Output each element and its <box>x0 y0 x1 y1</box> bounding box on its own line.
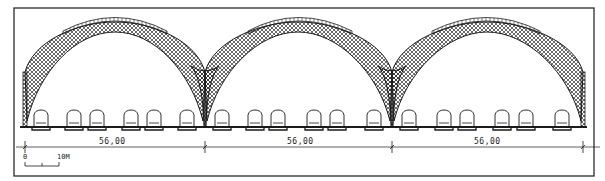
train-profile <box>67 110 81 126</box>
train-profile <box>330 110 344 126</box>
scale-bar: 0 10M <box>23 153 70 166</box>
train-profile <box>495 110 509 126</box>
train-profile <box>180 110 194 126</box>
end-pillar <box>581 72 585 127</box>
train-profile <box>460 110 474 126</box>
train-profile <box>90 110 104 126</box>
train-profile <box>307 110 321 126</box>
scale-zero-label: 0 <box>23 153 27 161</box>
end-pillar <box>23 72 27 127</box>
scale-end-label: 10M <box>57 153 70 161</box>
train-profile <box>555 110 569 126</box>
train-profile <box>367 110 381 126</box>
train-shed-section-drawing: 56,0056,0056,00 0 10M <box>0 0 605 181</box>
train-profile <box>215 110 229 126</box>
dimension-line: 56,0056,0056,00 <box>16 137 600 153</box>
arch-trusses <box>25 18 583 122</box>
arch-truss <box>205 22 392 121</box>
train-profile <box>248 110 262 126</box>
dimension-label: 56,00 <box>99 137 126 146</box>
train-profile <box>437 110 451 126</box>
train-profile <box>147 110 161 126</box>
dimension-label: 56,00 <box>287 137 314 146</box>
train-profile <box>519 110 533 126</box>
arch-truss <box>25 22 205 121</box>
train-profile <box>271 110 285 126</box>
arch-truss <box>392 22 583 121</box>
train-profile <box>402 110 416 126</box>
dimension-label: 56,00 <box>474 137 501 146</box>
train-profile <box>34 110 48 126</box>
train-profile <box>124 110 138 126</box>
